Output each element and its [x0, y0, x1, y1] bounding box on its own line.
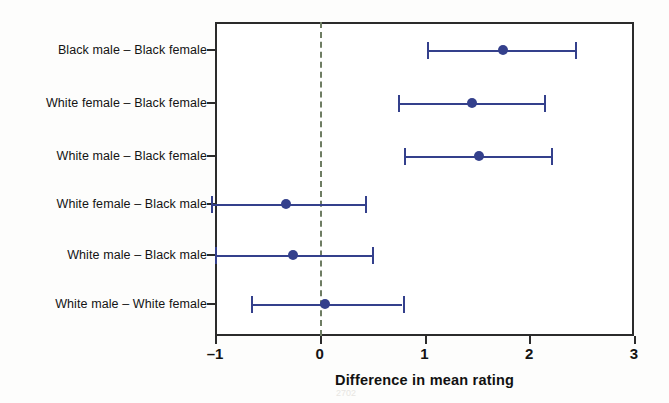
- x-tick-label: 3: [630, 345, 638, 362]
- interval-cap-lower: [215, 247, 217, 264]
- interval-cap-lower: [398, 95, 400, 112]
- x-tick-mark: [425, 336, 427, 344]
- interval-cap-upper: [551, 148, 553, 165]
- plot-area: [215, 22, 634, 336]
- scan-artifact: 2702: [336, 388, 356, 398]
- zero-reference-line: [320, 22, 322, 336]
- interval-cap-lower: [427, 42, 429, 59]
- x-tick-label: 1: [420, 345, 428, 362]
- interval-cap-lower: [211, 196, 213, 213]
- x-tick-mark: [634, 336, 636, 344]
- estimate-point: [288, 250, 298, 260]
- interval-cap-lower: [251, 296, 253, 313]
- x-tick-mark: [529, 336, 531, 344]
- interval-cap-lower: [404, 148, 406, 165]
- y-tick-mark: [207, 254, 215, 256]
- category-label: White male – Black female: [57, 149, 207, 163]
- category-label: White male – Black male: [67, 248, 207, 262]
- category-label: Black male – Black female: [58, 43, 207, 57]
- x-tick-label: 2: [525, 345, 533, 362]
- x-axis-title: Difference in mean rating: [215, 372, 634, 388]
- y-tick-mark: [207, 155, 215, 157]
- x-tick-mark: [215, 336, 217, 344]
- figure-container: Black male – Black femaleWhite female – …: [0, 0, 669, 403]
- estimate-point: [467, 98, 477, 108]
- interval-cap-upper: [365, 196, 367, 213]
- estimate-point: [474, 151, 484, 161]
- y-tick-mark: [207, 102, 215, 104]
- x-tick-mark: [320, 336, 322, 344]
- x-tick-label: –1: [207, 345, 224, 362]
- category-label: White female – Black male: [57, 197, 207, 211]
- estimate-point: [498, 45, 508, 55]
- interval-cap-upper: [544, 95, 546, 112]
- scan-artifact: [322, 6, 325, 16]
- x-tick-label: 0: [316, 345, 324, 362]
- category-axis-labels: Black male – Black femaleWhite female – …: [0, 0, 207, 403]
- interval-cap-upper: [372, 247, 374, 264]
- estimate-point: [320, 299, 330, 309]
- interval-cap-upper: [403, 296, 405, 313]
- y-tick-mark: [207, 49, 215, 51]
- category-label: White female – Black female: [46, 96, 207, 110]
- interval-cap-upper: [575, 42, 577, 59]
- category-label: White male – White female: [55, 297, 207, 311]
- y-tick-mark: [207, 303, 215, 305]
